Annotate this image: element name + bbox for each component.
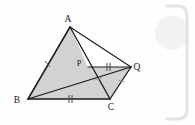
point-label-p: P bbox=[77, 58, 82, 68]
vertex-label-a: A bbox=[65, 14, 72, 24]
faint-circle-watermark bbox=[155, 16, 189, 50]
vertex-label-c: C bbox=[108, 102, 114, 112]
geometry-diagram: A B C P Q bbox=[0, 0, 195, 125]
vertex-label-q: Q bbox=[134, 62, 141, 72]
vertex-label-b: B bbox=[14, 95, 20, 105]
geometry-figure-container: A B C P Q bbox=[0, 0, 195, 125]
